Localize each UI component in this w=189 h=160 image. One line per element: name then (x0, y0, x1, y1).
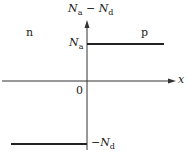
x-axis-label: x (178, 73, 184, 86)
origin-label: 0 (76, 84, 83, 97)
region-n-label: n (26, 26, 33, 39)
region-p-label: p (141, 26, 148, 39)
donor-level-label: −Nd (91, 136, 115, 151)
y-axis-arrow-icon (85, 20, 90, 28)
x-axis-arrow-icon (168, 79, 176, 84)
acceptor-level-label: Na (69, 36, 83, 51)
y-axis-label: Na − Nd (68, 2, 113, 17)
